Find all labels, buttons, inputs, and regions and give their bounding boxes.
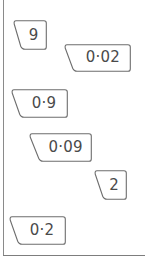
card-outline-shape [64, 44, 131, 72]
page-left-rule [3, 0, 4, 256]
number-card-0-9[interactable]: 0·9 [11, 89, 68, 118]
number-card-2[interactable]: 2 [94, 170, 127, 200]
number-card-9[interactable]: 9 [13, 20, 47, 50]
card-outline-shape [29, 133, 92, 162]
page-bottom-rule [3, 255, 145, 256]
card-outline-shape [11, 89, 68, 118]
card-outline-shape [13, 20, 47, 50]
number-card-0-02[interactable]: 0·02 [64, 44, 131, 72]
card-outline-shape [9, 216, 66, 245]
number-card-0-09[interactable]: 0·09 [29, 133, 92, 162]
worksheet-page: 90·020·90·0920·2 [0, 0, 150, 264]
number-card-0-2[interactable]: 0·2 [9, 216, 66, 245]
card-outline-shape [94, 170, 127, 200]
